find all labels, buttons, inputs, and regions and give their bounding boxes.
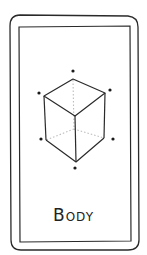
body-card[interactable]: Body — [0, 0, 147, 255]
card-label: Body — [0, 202, 147, 228]
